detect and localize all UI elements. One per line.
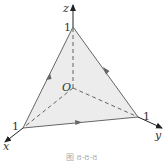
tetrahedron-diagram: z 1 O 1 x 1 y 图 8-8-8 xyxy=(0,0,166,164)
origin-label: O xyxy=(62,81,71,94)
figure-caption: 图 8-8-8 xyxy=(66,153,97,162)
y-intercept-label: 1 xyxy=(143,110,150,123)
y-axis xyxy=(138,117,162,128)
x-axis-label: x xyxy=(3,140,10,153)
z-intercept-label: 1 xyxy=(64,21,71,34)
triangle-face xyxy=(23,27,138,128)
y-axis-label: y xyxy=(154,129,162,142)
z-axis-label: z xyxy=(62,2,69,15)
x-intercept-label: 1 xyxy=(12,120,19,133)
